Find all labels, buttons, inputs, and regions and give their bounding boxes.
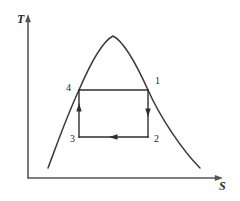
ts-diagram-canvas: [0, 0, 240, 201]
y-axis-label: T: [17, 13, 24, 25]
process-direction-arrows: [76, 103, 150, 140]
arrow-left-icon: [109, 134, 118, 139]
y-axis-group: [25, 14, 31, 178]
y-axis-arrow-icon: [25, 14, 31, 22]
arrow-up-icon: [76, 103, 81, 112]
x-axis-label: S: [219, 180, 226, 192]
state-point-label-2: 2: [154, 134, 159, 144]
state-point-label-4: 4: [66, 83, 71, 93]
state-point-label-3: 3: [70, 134, 75, 144]
arrow-down-icon: [145, 109, 150, 118]
ts-diagram-figure: T S 4 1 3 2: [0, 0, 240, 201]
cycle-path-group: [79, 90, 148, 137]
state-point-label-1: 1: [155, 76, 160, 86]
saturation-dome-curve: [48, 36, 200, 168]
x-axis-group: [28, 175, 223, 181]
